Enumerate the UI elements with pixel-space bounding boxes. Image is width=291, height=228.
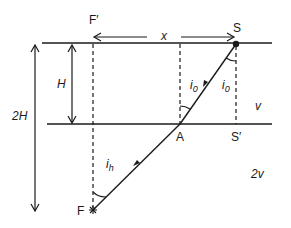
observer-point-f-icon (89, 206, 97, 214)
label-s: S (233, 21, 241, 35)
angle-arc-i0-at-a (180, 106, 190, 109)
angle-arc-i0-at-s (226, 58, 236, 61)
label-f: F (77, 204, 84, 218)
label-2h: 2H (11, 109, 28, 123)
refraction-diagram: F′ S x H 2H i0 i0 ih v A S′ F 2v (0, 0, 291, 228)
label-2v: 2v (250, 167, 265, 181)
label-ih: ih (106, 157, 114, 173)
source-point-s (233, 41, 239, 47)
label-a: A (176, 130, 184, 144)
label-x: x (160, 29, 168, 43)
label-f-prime: F′ (89, 13, 99, 27)
angle-arc-ih (93, 192, 106, 197)
label-i0-right: i0 (222, 78, 230, 94)
label-i0-left: i0 (190, 78, 198, 94)
label-s-prime: S′ (231, 130, 242, 144)
label-v: v (255, 99, 262, 113)
label-h: H (57, 77, 66, 91)
